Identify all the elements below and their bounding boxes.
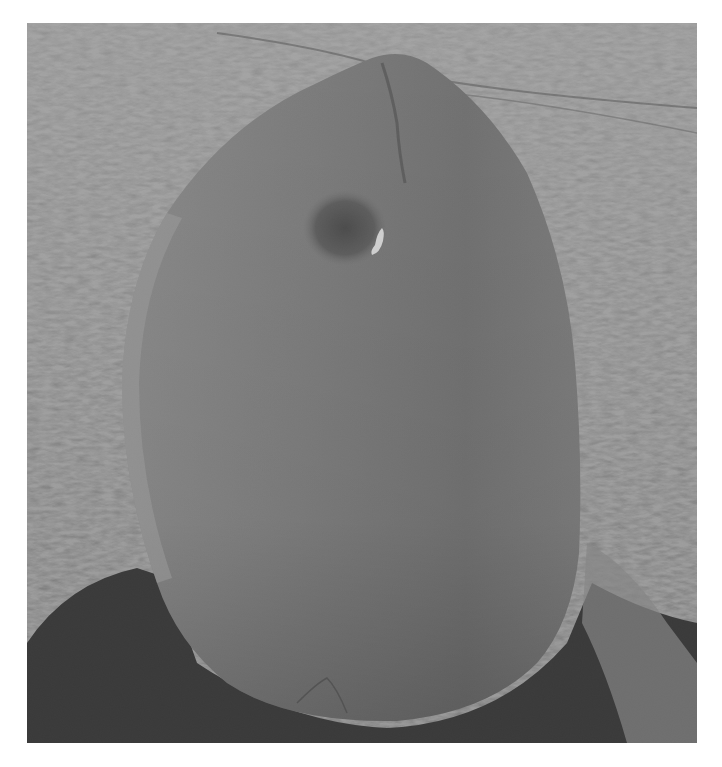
stone-scene xyxy=(27,23,697,743)
photograph: Black and white photograph of a tall rou… xyxy=(27,23,697,743)
